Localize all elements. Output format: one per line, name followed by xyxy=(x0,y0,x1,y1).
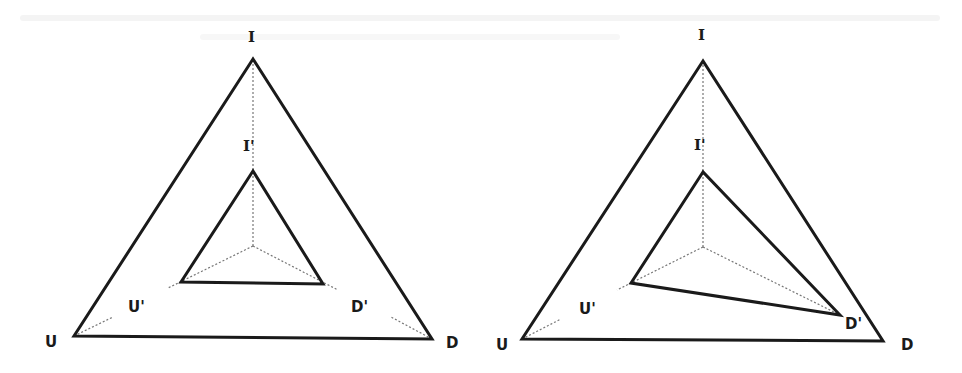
design-triangles-figure: I I' U U' D D' I I' U U' D D' xyxy=(0,0,962,373)
label-U: U xyxy=(496,336,508,354)
label-U-prime: U' xyxy=(128,298,145,316)
inner-triangle xyxy=(631,172,840,315)
right-diagram: I I' U U' D D' xyxy=(496,26,913,354)
label-I-prime: I' xyxy=(243,137,255,155)
label-U: U xyxy=(45,333,57,351)
dotted-axes xyxy=(74,59,432,339)
label-U-prime: U' xyxy=(579,300,596,318)
left-diagram: I I' U U' D D' xyxy=(45,28,458,352)
label-D: D xyxy=(901,336,913,354)
label-D-prime: D' xyxy=(845,315,862,333)
label-D-prime: D' xyxy=(351,298,368,316)
label-I: I xyxy=(698,26,705,44)
label-D: D xyxy=(446,334,458,352)
label-I: I xyxy=(248,28,255,46)
label-I-prime: I' xyxy=(694,136,706,154)
inner-triangle xyxy=(181,171,323,284)
